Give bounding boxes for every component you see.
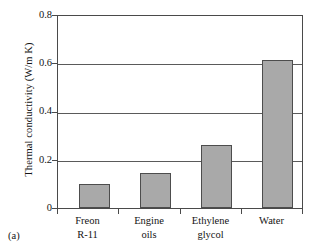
x-label-line-2: oils	[118, 228, 180, 242]
y-tick-label-4: 0	[24, 203, 52, 214]
y-axis-tick-labels: 0.8 0.6 0.4 0.2 0	[24, 0, 52, 251]
bars-layer	[58, 16, 302, 208]
x-label-engine-oils: Engine oils	[118, 214, 180, 241]
x-label-water: Water	[241, 214, 302, 228]
x-label-ethylene-glycol: Ethylene glycol	[180, 214, 241, 241]
bar-engine-oils[interactable]	[140, 173, 171, 208]
x-label-line-2: R-11	[57, 228, 118, 242]
x-label-line-2: glycol	[180, 228, 241, 242]
y-tick-label-2: 0.4	[24, 106, 52, 117]
x-label-line-1: Freon	[75, 215, 100, 226]
y-tick-label-1: 0.6	[24, 58, 52, 69]
panel-caption: (a)	[8, 230, 20, 241]
bar-ethylene-glycol[interactable]	[201, 145, 232, 208]
figure-panel-a: Thermal conductivity (W/m K) 0.8 0.6 0.4…	[0, 0, 313, 251]
x-label-line-1: Ethylene	[192, 215, 229, 226]
x-label-line-1: Water	[259, 215, 284, 226]
x-label-line-1: Engine	[134, 215, 164, 226]
y-tick-label-3: 0.2	[24, 155, 52, 166]
x-axis-category-labels: Freon R-11 Engine oils Ethylene glycol W…	[57, 214, 303, 248]
bar-water[interactable]	[262, 60, 293, 208]
x-label-freon-r-11: Freon R-11	[57, 214, 118, 241]
plot-area	[57, 15, 303, 209]
bar-freon-r-11[interactable]	[79, 184, 110, 208]
y-tick-label-0: 0.8	[24, 10, 52, 21]
